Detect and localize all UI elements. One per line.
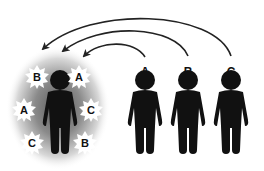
burst-label: B	[81, 137, 89, 149]
burst-label: A	[75, 71, 83, 83]
diagram-canvas: BAACCB ABC	[0, 0, 264, 171]
arrow-from-b	[63, 31, 188, 56]
arrow-from-a	[84, 44, 145, 57]
burst-label: A	[20, 104, 28, 116]
burst-label: C	[87, 104, 95, 116]
person-icon	[214, 70, 248, 154]
burst-label: C	[28, 137, 36, 149]
burst-label: B	[33, 71, 41, 83]
people-group: ABC	[128, 65, 248, 154]
diagram-svg: BAACCB ABC	[0, 0, 264, 171]
person-icon	[171, 70, 205, 154]
person-icon	[128, 70, 162, 154]
